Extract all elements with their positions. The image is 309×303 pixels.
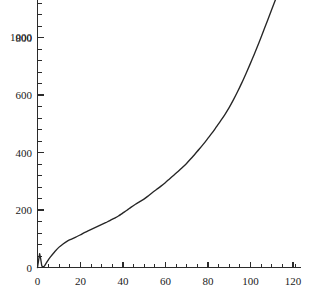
x-tick-label-80: 80 <box>203 275 215 287</box>
x-tick-label-40: 40 <box>118 275 130 287</box>
x-tick-label-60: 60 <box>160 275 172 287</box>
y-tick-label-600: 600 <box>16 89 33 101</box>
y-tick-label-1000: 1000 <box>0 31 32 43</box>
line-chart-plot: 0 200 400 600 800 <box>0 0 309 303</box>
x-tick-label-0: 0 <box>35 275 41 287</box>
x-tick-label-100: 100 <box>242 275 259 287</box>
chart-background <box>0 0 309 303</box>
y-tick-label-200: 200 <box>16 204 33 216</box>
y-tick-label-0: 0 <box>27 262 33 274</box>
chart-container: 0 200 400 600 800 <box>0 0 309 303</box>
x-tick-label-120: 120 <box>285 275 302 287</box>
y-tick-label-400: 400 <box>16 147 33 159</box>
x-tick-label-20: 20 <box>75 275 87 287</box>
